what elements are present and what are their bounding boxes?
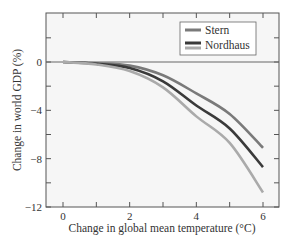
x-tick-label: 2 (127, 210, 133, 222)
chart: 02460−4−8−12 Change in global mean tempe… (0, 0, 295, 245)
x-tick-label: 6 (260, 210, 266, 222)
y-tick-label: −8 (30, 153, 42, 165)
y-axis-label: Change in world GDP (%) (11, 49, 24, 171)
legend-label-nordhaus: Nordhaus (205, 39, 250, 51)
legend-label-stern: Stern (205, 24, 230, 36)
y-tick-label: −12 (25, 201, 42, 213)
legend: Stern Nordhaus (180, 22, 256, 55)
x-tick-label: 0 (60, 210, 66, 222)
y-tick-label: −4 (30, 104, 42, 116)
x-axis-label: Change in global mean temperature (°C) (69, 222, 256, 235)
x-tick-label: 4 (194, 210, 200, 222)
y-tick-label: 0 (37, 56, 43, 68)
